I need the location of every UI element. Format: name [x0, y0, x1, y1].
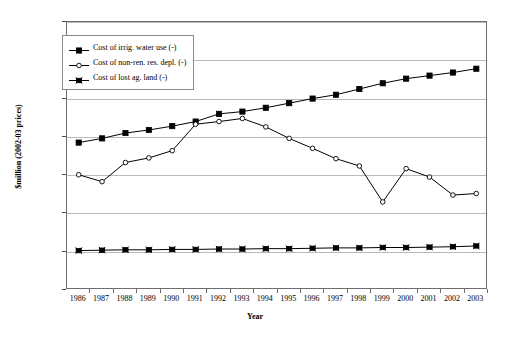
data-point-open-circle	[217, 119, 222, 124]
data-point-open-circle	[193, 122, 198, 127]
data-point-filled-square	[333, 92, 338, 97]
data-point-filled-square	[76, 140, 81, 145]
data-point-crossed-square	[426, 244, 432, 250]
data-point-crossed-square	[122, 247, 128, 253]
data-point-open-circle	[310, 146, 315, 151]
chart-legend: Cost of irrig. water use (-)Cost of non-…	[62, 35, 194, 90]
data-point-crossed-square	[146, 247, 152, 253]
data-point-crossed-square	[239, 246, 245, 252]
series-line-2	[79, 246, 477, 251]
data-point-filled-square	[474, 66, 479, 71]
data-point-open-circle	[474, 191, 479, 196]
data-point-crossed-square	[216, 246, 222, 252]
x-axis-tick-label: 2003	[455, 294, 495, 303]
data-point-open-circle	[357, 164, 362, 169]
data-point-filled-square	[427, 73, 432, 78]
data-point-filled-square	[99, 136, 104, 141]
data-point-filled-square	[450, 70, 455, 75]
data-point-filled-square	[240, 109, 245, 114]
legend-label: Cost of non-ren. res. depl. (-)	[93, 57, 186, 68]
data-point-filled-square	[76, 48, 81, 53]
data-point-open-circle	[404, 166, 409, 171]
y-axis-title: $million (2002-03 prices)	[14, 67, 23, 227]
data-point-open-circle	[170, 148, 175, 153]
data-point-filled-square	[263, 105, 268, 110]
data-point-open-circle	[77, 63, 82, 68]
data-point-filled-square	[146, 127, 151, 132]
data-point-open-circle	[287, 136, 292, 141]
data-point-open-circle	[451, 193, 456, 198]
data-point-open-circle	[264, 125, 269, 130]
legend-marker-open-circle-icon	[68, 57, 90, 68]
data-point-filled-square	[123, 130, 128, 135]
data-point-crossed-square	[333, 245, 339, 251]
data-point-filled-square	[287, 101, 292, 106]
data-point-open-circle	[100, 179, 105, 184]
data-point-filled-square	[216, 111, 221, 116]
data-point-crossed-square	[450, 244, 456, 250]
chart-container: $million (2002-03 prices) 0.01,000.02,00…	[0, 0, 510, 342]
data-point-open-circle	[147, 156, 152, 161]
legend-label: Cost of lost ag. land (-)	[93, 72, 167, 83]
data-point-crossed-square	[99, 247, 105, 253]
data-point-crossed-square	[403, 244, 409, 250]
data-point-crossed-square	[309, 245, 315, 251]
data-point-open-circle	[334, 156, 339, 161]
data-point-open-circle	[76, 172, 81, 177]
data-point-filled-square	[380, 81, 385, 86]
legend-label: Cost of irrig. water use (-)	[93, 42, 177, 53]
data-point-open-circle	[427, 175, 432, 180]
data-point-open-circle	[240, 116, 245, 121]
legend-marker-filled-square-icon	[68, 42, 90, 53]
data-point-crossed-square	[356, 245, 362, 251]
data-point-open-circle	[380, 200, 385, 205]
legend-item: Cost of lost ag. land (-)	[68, 70, 186, 85]
data-point-crossed-square	[263, 245, 269, 251]
data-point-crossed-square	[169, 246, 175, 252]
data-point-open-circle	[123, 160, 128, 165]
x-axis-title: Year	[0, 312, 510, 321]
data-point-filled-square	[357, 86, 362, 91]
data-point-crossed-square	[75, 247, 81, 253]
data-point-filled-square	[170, 124, 175, 129]
data-point-filled-square	[310, 96, 315, 101]
data-point-crossed-square	[192, 246, 198, 252]
legend-item: Cost of irrig. water use (-)	[68, 40, 186, 55]
data-point-crossed-square	[76, 77, 82, 83]
legend-marker-crossed-square-icon	[68, 72, 90, 83]
data-point-crossed-square	[286, 245, 292, 251]
legend-item: Cost of non-ren. res. depl. (-)	[68, 55, 186, 70]
data-point-crossed-square	[473, 243, 479, 249]
data-point-filled-square	[404, 76, 409, 81]
data-point-crossed-square	[380, 244, 386, 250]
y-axis-tick-mark	[62, 289, 66, 290]
